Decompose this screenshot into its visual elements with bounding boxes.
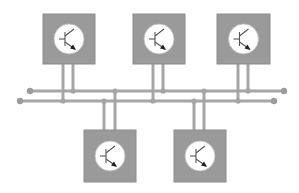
transistor-circle xyxy=(144,24,174,54)
transistor-circle xyxy=(54,24,84,54)
modules-layer xyxy=(43,14,270,182)
bus-end-node xyxy=(17,98,23,104)
module-bottom-1 xyxy=(84,130,136,182)
bus-diagram xyxy=(0,0,299,193)
transistor-circle xyxy=(185,141,215,171)
wires-layer xyxy=(60,64,250,130)
bus-end-node xyxy=(27,88,33,94)
bus-end-node xyxy=(281,88,287,94)
transistor-circle xyxy=(229,24,259,54)
module-top-1 xyxy=(43,14,95,64)
transistor-circle xyxy=(95,141,125,171)
module-top-2 xyxy=(133,14,185,64)
bus-end-node xyxy=(271,98,277,104)
module-bottom-2 xyxy=(174,130,226,182)
module-top-3 xyxy=(217,14,270,64)
